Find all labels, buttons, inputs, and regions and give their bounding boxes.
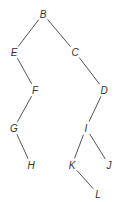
node-I: I [85, 123, 88, 134]
edge-F-G [17, 96, 31, 122]
edge-K-L [77, 170, 94, 189]
edge-E-F [17, 58, 31, 84]
edge-C-D [79, 58, 100, 85]
node-F: F [32, 85, 39, 96]
edge-D-I [89, 96, 101, 121]
edge-B-C [48, 19, 71, 46]
node-B: B [40, 9, 47, 20]
node-E: E [11, 47, 18, 58]
edge-I-K [74, 135, 83, 159]
node-C: C [71, 47, 79, 58]
edge-I-J [90, 134, 106, 159]
node-H: H [27, 160, 35, 171]
edge-B-E [18, 20, 39, 47]
node-G: G [10, 123, 18, 134]
node-D: D [100, 85, 107, 96]
node-J: J [106, 160, 113, 171]
node-K: K [69, 160, 77, 171]
node-L: L [95, 189, 101, 200]
edge-G-H [17, 134, 28, 158]
tree-diagram: BECFDGIHKJL [0, 0, 117, 202]
